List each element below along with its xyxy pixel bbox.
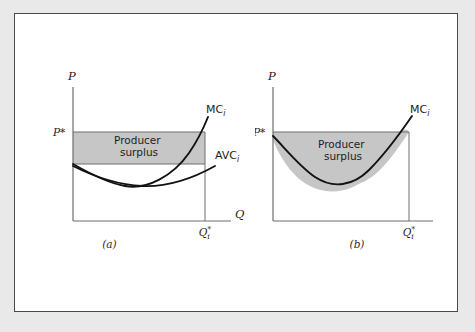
figure-frame: P Q P* Q*i Producer surplus MCi AVCi [14, 13, 458, 312]
producer-surplus-line1-a: Producer [114, 134, 161, 146]
producer-surplus-line1-b: Producer [318, 138, 365, 150]
panel-b-plot: P P* Q*i Producer surplus MCi [255, 14, 459, 259]
panel-b-caption: (b) [255, 238, 459, 250]
y-axis-label-a: P [67, 69, 76, 83]
avc-sub-a: i [237, 155, 240, 164]
x-axis-label-a: Q [235, 207, 245, 221]
producer-surplus-label-a: Producer surplus [114, 134, 164, 158]
panel-a: P Q P* Q*i Producer surplus MCi AVCi [15, 14, 260, 313]
mc-curve-label-b: MCi [410, 103, 430, 118]
panel-a-caption: (a) [0, 238, 232, 250]
mc-sub-a: i [223, 109, 226, 118]
panel-b: P P* Q*i Producer surplus MCi (b) [255, 14, 459, 313]
mc-base-b: MC [410, 103, 427, 116]
mc-curve-label-a: MCi [206, 103, 226, 118]
panel-a-plot: P Q P* Q*i Producer surplus MCi AVCi [15, 14, 260, 259]
producer-surplus-line2-a: surplus [120, 146, 158, 158]
avc-curve-label-a: AVCi [215, 149, 240, 164]
price-star-label-b: P* [255, 126, 266, 138]
y-axis-label-b: P [267, 69, 276, 83]
figure-root: P Q P* Q*i Producer surplus MCi AVCi [0, 0, 475, 332]
producer-surplus-label-b: Producer surplus [318, 138, 368, 162]
mc-sub-b: i [427, 109, 430, 118]
mc-base-a: MC [206, 103, 223, 116]
avc-base-a: AVC [215, 149, 237, 162]
price-star-label-a: P* [52, 126, 66, 138]
producer-surplus-line2-b: surplus [324, 150, 362, 162]
